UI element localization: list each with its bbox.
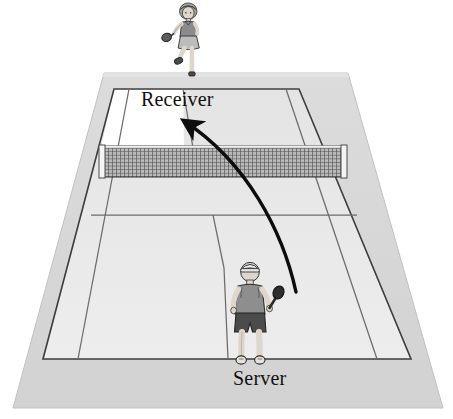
receiver-figure <box>161 3 200 76</box>
tennis-net <box>99 145 347 178</box>
tennis-serve-diagram: Receiver Server <box>0 0 453 419</box>
court-illustration <box>0 0 453 419</box>
net-tape <box>104 146 342 149</box>
net-post-left <box>99 145 105 178</box>
receiver-label: Receiver <box>141 88 214 111</box>
receiver-racket <box>161 32 174 43</box>
server-label: Server <box>233 367 286 390</box>
net-post-right <box>341 145 347 178</box>
